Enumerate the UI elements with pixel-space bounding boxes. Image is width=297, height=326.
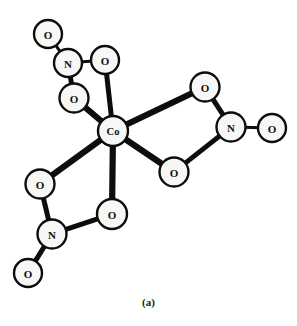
structure-canvas: CoONOOONOOONOO <box>0 0 297 326</box>
atom-n_ll: N <box>38 220 67 249</box>
atom-circle-o_ul_b <box>60 84 89 113</box>
atom-circle-o_ll_a <box>26 170 55 199</box>
atom-circle-co <box>98 116 128 146</box>
atom-circle-o_ll_b <box>97 199 127 229</box>
atom-o_r_b: O <box>160 158 189 187</box>
bond-o_ll_b-co <box>112 143 113 202</box>
atom-o_ll_a: O <box>26 170 55 199</box>
atom-o_ul_b: O <box>60 84 89 113</box>
atom-circle-n_ll <box>38 220 67 249</box>
atom-o_ul_t: O <box>34 20 62 48</box>
molecular-structure-figure: CoONOOONOOONOO (a) <box>0 0 297 326</box>
atom-o_ul_a: O <box>91 46 119 74</box>
atom-circle-o_r_a <box>191 73 220 102</box>
bond-o_r_b-co <box>123 138 164 166</box>
bond-n_r-o_r_b <box>183 134 222 165</box>
bond-o_r_a-co <box>124 92 195 126</box>
atom-co: Co <box>98 116 128 146</box>
bond-o_ul_a-co <box>106 71 111 119</box>
bond-o_ll_a-co <box>49 138 103 177</box>
atom-o_ll_t: O <box>14 259 42 287</box>
atom-n_ul: N <box>54 49 82 77</box>
atom-circle-o_ll_t <box>14 259 42 287</box>
bond-o_ll_a-n_ll <box>43 195 50 223</box>
atom-circle-n_r <box>217 113 246 142</box>
atom-circle-o_r_t <box>258 114 286 142</box>
atom-n_r: N <box>217 113 246 142</box>
atom-circle-o_ul_t <box>34 20 62 48</box>
atom-circle-o_ul_a <box>91 46 119 74</box>
atom-o_ll_b: O <box>97 199 127 229</box>
atom-circle-o_r_b <box>160 158 189 187</box>
atom-o_r_a: O <box>191 73 220 102</box>
atom-circle-n_ul <box>54 49 82 77</box>
figure-caption: (a) <box>0 296 297 308</box>
atom-o_r_t: O <box>258 114 286 142</box>
bond-n_ll-o_ll_b <box>63 218 101 231</box>
